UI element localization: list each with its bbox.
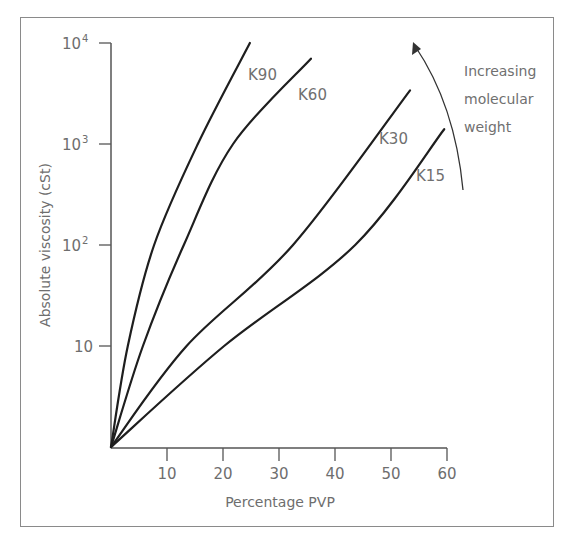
y-tick-exponent: 2 <box>82 235 88 246</box>
curve-label-k60: K60 <box>298 86 327 104</box>
y-tick-label: 10 <box>62 35 81 53</box>
x-tick-label: 30 <box>269 465 288 483</box>
curve-k15 <box>111 129 444 447</box>
curve-label-k90: K90 <box>248 66 277 84</box>
y-axis-title: Absolute viscosity (cSt) <box>37 163 53 327</box>
x-tick-label: 60 <box>437 465 456 483</box>
annotation-line: Increasing <box>464 63 536 79</box>
curve-k30 <box>111 90 410 447</box>
x-tick-label: 20 <box>213 465 232 483</box>
annotation-line: weight <box>464 119 512 135</box>
x-axis-title: Percentage PVP <box>225 494 335 510</box>
y-tick-label: 10 <box>62 136 81 154</box>
x-tick-label: 10 <box>157 465 176 483</box>
x-tick-label: 40 <box>325 465 344 483</box>
curve-label-k30: K30 <box>379 130 408 148</box>
x-tick-label: 50 <box>381 465 400 483</box>
curve-label-k15: K15 <box>416 167 445 185</box>
annotation-line: molecular <box>464 91 534 107</box>
y-tick-label: 10 <box>74 338 93 356</box>
y-tick-exponent: 4 <box>82 33 88 44</box>
y-tick-label: 10 <box>62 237 81 255</box>
y-tick-exponent: 3 <box>82 134 88 145</box>
viscosity-chart: 10203040506010102103104Percentage PVPAbs… <box>0 0 569 541</box>
curve-k90 <box>111 43 250 447</box>
